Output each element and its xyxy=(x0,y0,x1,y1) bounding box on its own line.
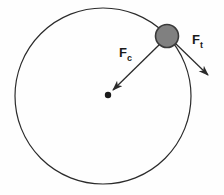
circular-motion-diagram: Fc Ft xyxy=(0,0,224,195)
tangential-force-vector xyxy=(175,43,208,75)
tangential-force-label-main: F xyxy=(192,32,200,47)
orbiting-ball xyxy=(156,25,179,48)
physics-diagram-canvas: Fc Ft xyxy=(0,0,224,195)
centripetal-force-label: Fc xyxy=(119,45,132,63)
tangential-force-label: Ft xyxy=(192,32,203,50)
centripetal-force-label-main: F xyxy=(119,45,127,60)
tangential-force-label-sub: t xyxy=(200,40,203,50)
orbit-center-point xyxy=(105,92,111,98)
centripetal-force-label-sub: c xyxy=(127,53,132,63)
